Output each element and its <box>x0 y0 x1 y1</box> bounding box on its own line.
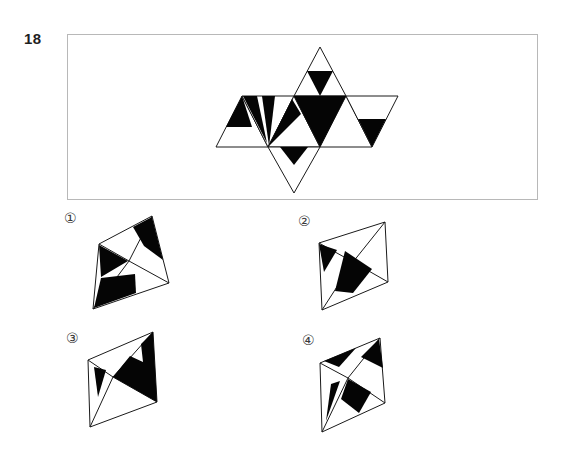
option-4-figure <box>314 331 394 437</box>
option-3-figure <box>82 327 167 435</box>
question-number: 18 <box>24 30 42 47</box>
option-1-figure <box>82 210 177 315</box>
option-1-label[interactable]: ① <box>64 211 77 225</box>
stimulus-box <box>67 34 538 200</box>
option-2-figure <box>312 215 397 315</box>
option-2-label[interactable]: ② <box>298 214 311 228</box>
octahedron-net-figure <box>68 35 539 201</box>
option-3-label[interactable]: ③ <box>66 331 79 345</box>
option-4-label[interactable]: ④ <box>302 333 315 347</box>
test-page: 18 ① <box>0 0 568 452</box>
